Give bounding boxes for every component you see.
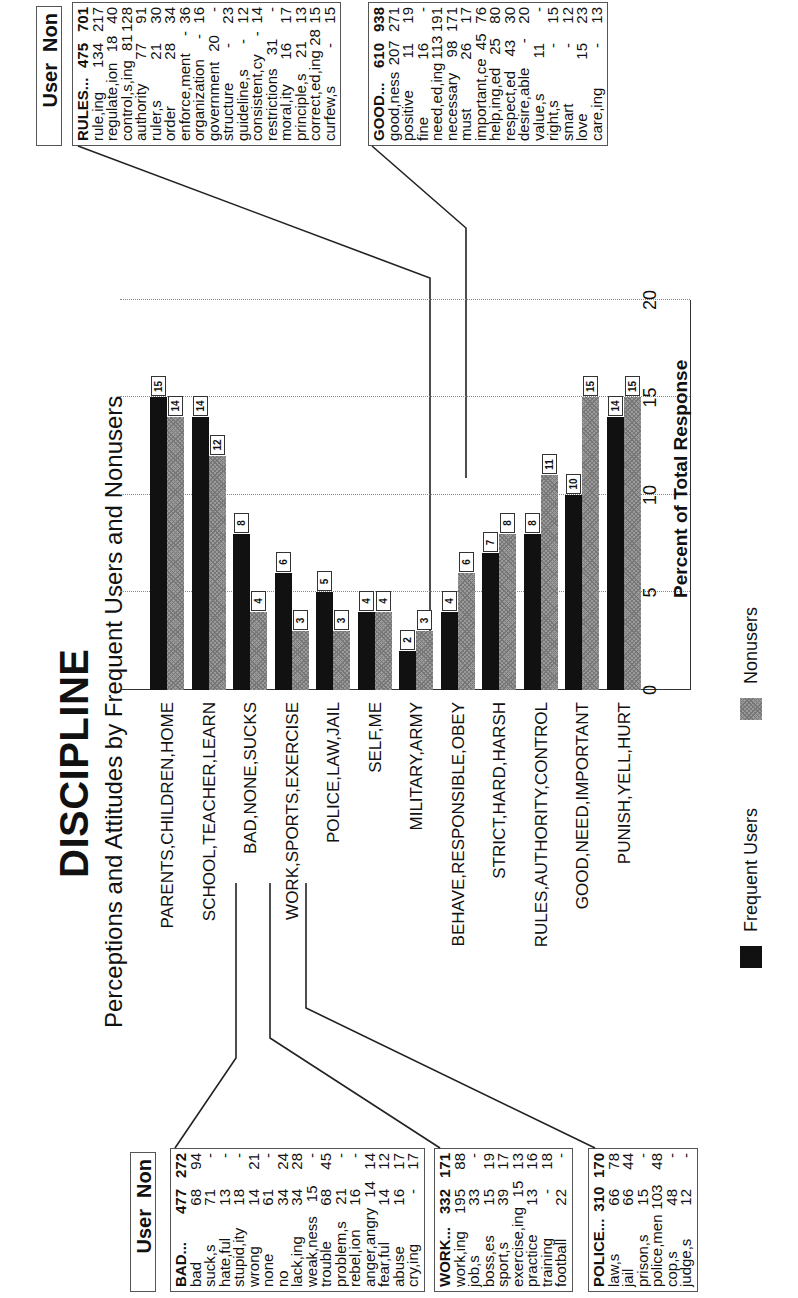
bar-frequent-users	[399, 651, 416, 690]
bar-value-label: 8	[500, 513, 515, 533]
bar-nonusers	[582, 398, 599, 691]
bar-value-label: 15	[625, 377, 640, 397]
bar-frequent-users	[192, 417, 209, 690]
bar-nonusers	[250, 612, 267, 690]
x-tick-label: 15	[640, 387, 661, 407]
bar-value-label: 15	[151, 377, 166, 397]
chart-page: DISCIPLINE Perceptions and Attitudes by …	[0, 0, 798, 1298]
bar-frequent-users	[150, 398, 167, 691]
bar-value-label: 3	[293, 611, 308, 631]
gridline	[120, 299, 690, 300]
bar-nonusers	[499, 534, 516, 690]
x-tick-label: 20	[640, 290, 661, 310]
category-label: STRICT,HARD,HARSH	[490, 702, 510, 879]
bar-nonusers	[458, 573, 475, 690]
category-label: GOOD,NEED,IMPORTANT	[573, 702, 593, 909]
category-label: SCHOOL,TEACHER,LEARN	[200, 702, 220, 921]
bar-nonusers	[167, 417, 184, 690]
legend: Frequent Users Nonusers	[740, 607, 762, 968]
category-label: WORK,SPORTS,EXERCISE	[283, 702, 303, 920]
bar-frequent-users	[524, 534, 541, 690]
bar-nonusers	[375, 612, 392, 690]
bar-value-label: 6	[276, 552, 291, 572]
category-label: RULES,AUTHORITY,CONTROL	[532, 702, 552, 947]
bar-value-label: 8	[234, 513, 249, 533]
bar-value-label: 3	[334, 611, 349, 631]
bar-frequent-users	[482, 554, 499, 691]
bar-value-label: 11	[542, 455, 557, 475]
x-tick-label: 5	[640, 587, 661, 597]
bar-value-label: 8	[525, 513, 540, 533]
category-label: BAD,NONE,SUCKS	[241, 702, 261, 854]
connector-lines	[0, 0, 798, 1298]
category-label: MILITARY,ARMY	[407, 702, 427, 830]
bar-frequent-users	[565, 495, 582, 690]
x-tick-label: 10	[640, 485, 661, 505]
bar-frequent-users	[358, 612, 375, 690]
legend-label-users: Frequent Users	[741, 808, 762, 932]
bar-value-label: 12	[210, 435, 225, 455]
bar-value-label: 4	[442, 591, 457, 611]
bar-frequent-users	[233, 534, 250, 690]
bar-frequent-users	[441, 612, 458, 690]
bar-nonusers	[624, 398, 641, 691]
bar-nonusers	[416, 632, 433, 691]
bar-value-label: 10	[566, 474, 581, 494]
bar-value-label: 6	[459, 552, 474, 572]
bar-value-label: 7	[483, 533, 498, 553]
legend-swatch-users	[740, 946, 762, 968]
legend-label-nonusers: Nonusers	[741, 607, 762, 684]
bar-value-label: 2	[400, 630, 415, 650]
bar-frequent-users	[607, 417, 624, 690]
bar-frequent-users	[316, 593, 333, 691]
bar-frequent-users	[275, 573, 292, 690]
category-label: POLICE,LAW,JAIL	[324, 702, 344, 843]
bar-value-label: 3	[417, 611, 432, 631]
category-label: BEHAVE,RESPONSIBLE,OBEY	[449, 702, 469, 946]
bar-value-label: 14	[193, 396, 208, 416]
category-label: PUNISH,YELL,HURT	[615, 702, 635, 864]
legend-swatch-nonusers	[740, 698, 762, 720]
x-axis-title: Percent of Total Response	[670, 360, 692, 598]
x-tick-label: 0	[640, 685, 661, 695]
bar-nonusers	[209, 456, 226, 690]
bar-value-label: 15	[583, 377, 598, 397]
bar-value-label: 4	[251, 591, 266, 611]
bar-value-label: 14	[168, 396, 183, 416]
category-label: SELF,ME	[366, 702, 386, 773]
bar-nonusers	[292, 632, 309, 691]
bar-value-label: 5	[317, 572, 332, 592]
category-label: PARENTS,CHILDREN,HOME	[158, 702, 178, 928]
bar-nonusers	[541, 476, 558, 691]
bar-value-label: 14	[608, 396, 623, 416]
bar-value-label: 4	[359, 591, 374, 611]
bar-value-label: 4	[376, 591, 391, 611]
bar-nonusers	[333, 632, 350, 691]
